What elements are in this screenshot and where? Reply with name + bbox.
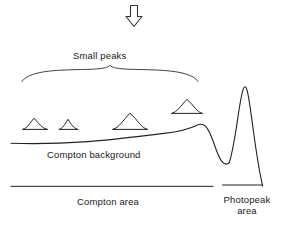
label-photopeak-area: Photopeak area: [219, 194, 275, 216]
label-compton-area: Compton area: [77, 196, 139, 207]
small-peak-4: [172, 99, 203, 113]
small-peak-group: [23, 99, 203, 129]
small-peak-3: [113, 113, 148, 129]
small-peak-1: [23, 118, 48, 129]
small-peak-2: [59, 119, 78, 129]
gamma-spectrum-figure: Small peaks Compton background Compton a…: [0, 0, 282, 226]
down-arrow-icon: [126, 6, 142, 27]
spectrum-drawing: [0, 0, 282, 226]
brace-icon: [22, 65, 198, 82]
label-small-peaks: Small peaks: [73, 50, 126, 61]
photopeak-curve: [229, 87, 262, 186]
label-compton-background: Compton background: [47, 149, 141, 160]
